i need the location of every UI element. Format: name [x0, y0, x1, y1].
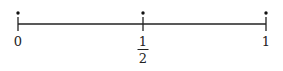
label-1: 1 — [262, 35, 270, 48]
point-0-dot — [16, 11, 19, 14]
fraction-numerator: 1 — [139, 35, 147, 48]
fraction-denominator: 2 — [139, 52, 147, 65]
point-1-dot — [264, 11, 267, 14]
label-one-half: 1 2 — [138, 35, 149, 65]
label-0: 0 — [14, 35, 22, 48]
fraction-bar — [138, 49, 149, 50]
point-half-dot — [141, 11, 144, 14]
